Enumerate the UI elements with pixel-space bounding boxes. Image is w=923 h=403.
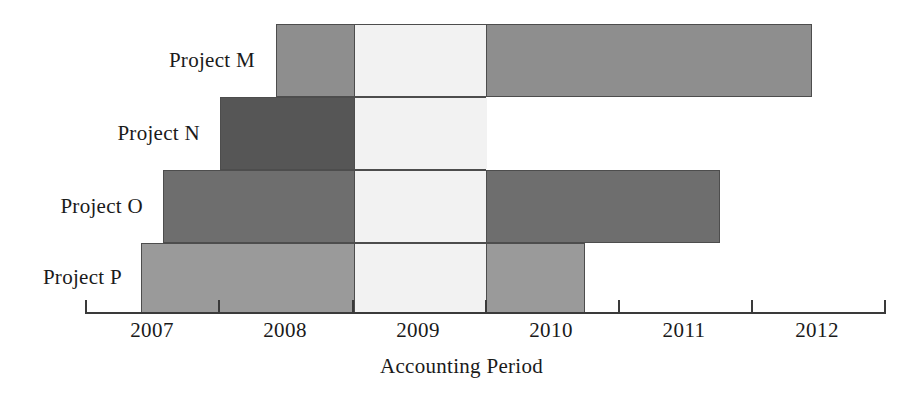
gantt-bar-project-n-band-segment [354, 98, 487, 169]
x-axis-label-2011: 2011 [663, 318, 706, 343]
gantt-bar-project-m[interactable] [276, 24, 812, 97]
x-axis-label-2010: 2010 [529, 318, 573, 343]
gantt-bar-project-p-band-segment [354, 244, 487, 313]
gantt-row-project-m [85, 24, 885, 97]
x-axis-label-2012: 2012 [795, 318, 839, 343]
x-axis-tick-2007-5 [218, 300, 220, 313]
x-axis-label-2008: 2008 [263, 318, 307, 343]
gantt-bar-project-n[interactable] [220, 97, 486, 170]
gantt-bar-project-o[interactable] [163, 170, 720, 243]
gantt-bar-project-m-band-segment [354, 25, 487, 96]
x-axis-tick-2009-5 [485, 300, 487, 313]
x-axis-tick-2011-5 [751, 300, 753, 313]
x-axis-label-2009: 2009 [396, 318, 440, 343]
gantt-row-project-n [85, 97, 885, 170]
x-axis-tick-2012-5 [884, 300, 886, 313]
gantt-row-project-o [85, 170, 885, 243]
x-axis-title: Accounting Period [0, 354, 923, 379]
gantt-chart: Project M Project N Project O Project P [0, 0, 923, 403]
x-axis-tick-2006-5 [85, 300, 87, 313]
x-axis-tick-2010-5 [618, 300, 620, 313]
plot-area [85, 18, 885, 313]
x-axis-tick-2008-5 [352, 300, 354, 313]
gantt-bar-project-o-band-segment [354, 171, 487, 242]
gantt-bar-project-p[interactable] [141, 243, 585, 313]
x-axis-label-2007: 2007 [130, 318, 174, 343]
